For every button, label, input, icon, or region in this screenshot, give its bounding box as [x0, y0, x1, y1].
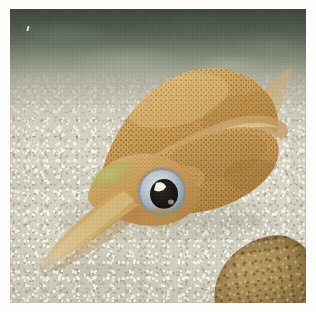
eye-pupil — [150, 179, 178, 209]
squid — [10, 9, 306, 303]
photograph — [10, 9, 306, 303]
eye-highlight-small — [168, 200, 174, 205]
photo-frame — [0, 0, 316, 312]
funnel — [140, 214, 180, 228]
